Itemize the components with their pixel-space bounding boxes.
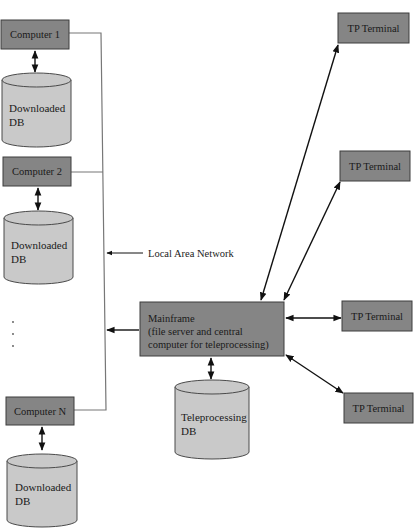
svg-text:TP Terminal: TP Terminal bbox=[347, 23, 399, 34]
lan-label-pointer: Local Area Network bbox=[107, 248, 234, 259]
computer-n-label: Computer N bbox=[14, 406, 67, 417]
computer-2-label: Computer 2 bbox=[12, 166, 62, 177]
computer-2-node: Computer 2 Downloaded DB bbox=[3, 157, 73, 284]
svg-text:TP Terminal: TP Terminal bbox=[352, 403, 404, 414]
svg-text:DB: DB bbox=[15, 495, 30, 507]
teleprocessing-db-node: Teleprocessing DB bbox=[175, 380, 249, 459]
tp-terminal-1: TP Terminal bbox=[338, 13, 409, 43]
computer-1-node: Computer 1 Downloaded DB bbox=[1, 20, 71, 147]
svg-text:computer for teleprocessing): computer for teleprocessing) bbox=[148, 339, 269, 351]
lan-backbone bbox=[69, 33, 106, 410]
svg-text:DB: DB bbox=[9, 116, 24, 128]
computer-1-label: Computer 1 bbox=[10, 29, 60, 40]
more-computers-ellipsis bbox=[12, 321, 14, 347]
tp-terminal-3: TP Terminal bbox=[342, 301, 412, 331]
svg-text:TP Terminal: TP Terminal bbox=[351, 311, 403, 322]
tp-terminal-4: TP Terminal bbox=[344, 393, 413, 423]
teleprocessing-db-label: Teleprocessing bbox=[181, 411, 247, 423]
svg-text:TP Terminal: TP Terminal bbox=[349, 161, 401, 172]
computer-1-db-label: Downloaded bbox=[9, 102, 66, 114]
computer-n-node: Computer N Downloaded DB bbox=[6, 397, 77, 527]
mainframe-node: Mainframe (file server and central compu… bbox=[107, 302, 284, 379]
computer-n-db-label: Downloaded bbox=[15, 481, 72, 493]
network-diagram: Local Area Network Computer 1 Downloaded… bbox=[0, 0, 416, 532]
tp-terminal-2: TP Terminal bbox=[340, 151, 410, 181]
svg-text:(file server and central: (file server and central bbox=[148, 326, 243, 338]
svg-text:DB: DB bbox=[181, 425, 196, 437]
lan-label: Local Area Network bbox=[148, 248, 234, 259]
svg-text:DB: DB bbox=[11, 253, 26, 265]
mainframe-label: Mainframe bbox=[148, 313, 195, 324]
computer-2-db-label: Downloaded bbox=[11, 239, 68, 251]
